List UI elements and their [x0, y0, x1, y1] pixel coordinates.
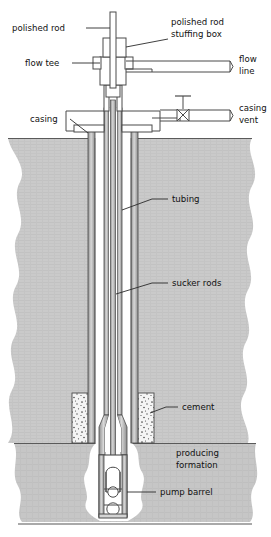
- label-flow-tee: flow tee: [25, 58, 59, 68]
- label-flow-line-line1: flow: [239, 54, 257, 64]
- label-sucker-rods: sucker rods: [172, 278, 222, 288]
- label-pump-barrel: pump barrel: [160, 487, 213, 497]
- casing-wall-right: [131, 131, 138, 443]
- pump-barrel-assembly: [99, 455, 127, 518]
- casing-vent-valve-icon: [177, 109, 189, 121]
- label-polished-rod-stuffing-box: polished rod stuffing box: [171, 17, 227, 39]
- sucker-rod-string: [111, 100, 116, 460]
- label-casing-vent-line2: vent: [239, 115, 259, 125]
- label-flow-line-line2: line: [239, 66, 255, 76]
- pump-barrel-shoe: [99, 514, 127, 518]
- label-cement: cement: [182, 402, 215, 412]
- diagram-canvas: polished rod polished rod stuffing box f…: [0, 0, 271, 537]
- casing-vent-piping: [152, 96, 233, 121]
- label-producing-formation: producing formation: [176, 448, 222, 470]
- casing-head-flange-right: [122, 125, 152, 132]
- label-flow-line: flow line: [239, 54, 259, 76]
- label-casing-vent-line1: casing: [239, 103, 267, 113]
- label-stuffing-box-line1: polished rod: [171, 17, 224, 27]
- well-schematic-diagram: polished rod polished rod stuffing box f…: [0, 0, 271, 537]
- traveling-valve-ball: [108, 487, 118, 497]
- label-tubing: tubing: [172, 194, 200, 204]
- sucker-rod: [111, 100, 116, 460]
- cement-block-left: [72, 393, 88, 443]
- label-producing-formation-line2: formation: [176, 460, 218, 470]
- flow-line-piping: [126, 61, 233, 72]
- soil-right-block: [138, 138, 255, 443]
- pump-barrel-wall-right: [122, 455, 127, 517]
- polished-rod: [110, 12, 116, 88]
- label-stuffing-box-line2: stuffing box: [171, 29, 222, 39]
- label-producing-formation-line1: producing: [176, 448, 219, 458]
- cement-block-right: [138, 393, 154, 443]
- casing-wall-left: [88, 131, 95, 443]
- leader-stuffing-box: [126, 39, 168, 47]
- tubing-wall-right: [117, 108, 122, 415]
- label-polished-rod: polished rod: [12, 23, 65, 33]
- pump-barrel-wall-left: [99, 455, 104, 517]
- casing-vent-outlet-end: [230, 110, 233, 121]
- tubing-wall-left: [104, 108, 109, 415]
- label-casing: casing: [30, 114, 58, 124]
- flow-line-outlet-end: [230, 61, 233, 72]
- flow-tee-shoulder-right: [125, 57, 133, 69]
- label-casing-vent: casing vent: [239, 103, 270, 125]
